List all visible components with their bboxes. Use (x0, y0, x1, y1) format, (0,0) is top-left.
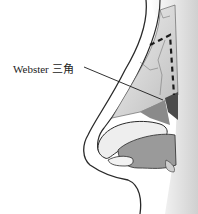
columella (108, 156, 133, 166)
webster-triangle-label: Webster 三角 (13, 63, 74, 75)
nose-diagram: Webster 三角 (0, 0, 198, 214)
nose-illustration (0, 0, 198, 214)
